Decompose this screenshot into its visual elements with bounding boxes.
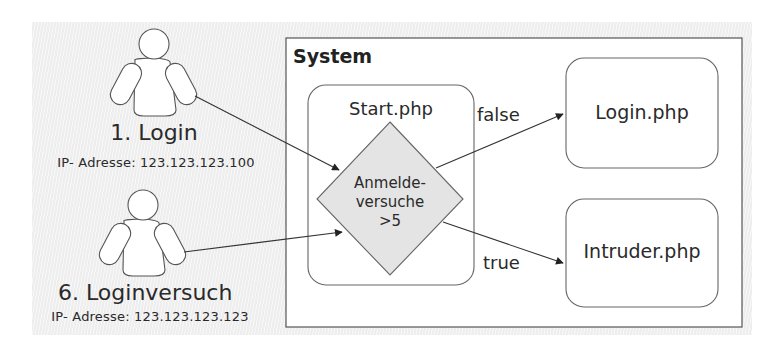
- actor-2-name: 6. Loginversuch: [58, 280, 230, 305]
- start-php-label: Start.php: [308, 98, 474, 119]
- decision-label: Anmelde- versuche >5: [330, 174, 450, 231]
- decision-line-3: >5: [330, 212, 450, 231]
- intruder-php-label: Intruder.php: [566, 240, 718, 262]
- actor-2-ip: IP- Adresse: 123.123.123.123: [30, 309, 270, 324]
- user-icon: [96, 190, 189, 276]
- decision-line-1: Anmelde-: [330, 174, 450, 193]
- system-title: System: [293, 45, 372, 67]
- user-icon: [107, 29, 200, 116]
- decision-line-2: versuche: [330, 193, 450, 212]
- edge-true-label: true: [483, 252, 520, 273]
- actor-1-name: 1. Login: [78, 120, 230, 145]
- login-php-label: Login.php: [566, 101, 718, 123]
- actor-1-ip: IP- Adresse: 123.123.123.100: [36, 155, 276, 170]
- edge-false-label: false: [477, 104, 520, 125]
